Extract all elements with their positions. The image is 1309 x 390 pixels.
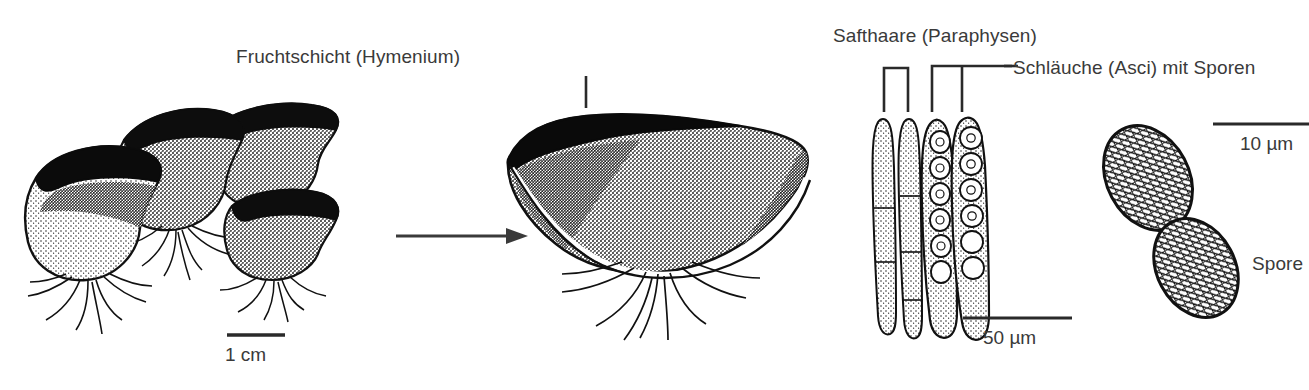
label-asci: Schläuche (Asci) mit Sporen <box>1013 57 1255 79</box>
label-hymenium: Fruchtschicht (Hymenium) <box>236 46 460 68</box>
asci-bracket <box>932 66 1018 112</box>
paraphyses-bracket <box>884 68 908 112</box>
fruiting-body-back-right <box>214 104 338 209</box>
mycelium-threads <box>562 262 760 340</box>
fruiting-body-upper-middle <box>114 109 244 280</box>
scale-bar-1cm-label: 1 cm <box>225 344 266 366</box>
magnify-arrow <box>396 228 528 244</box>
scale-bar-10um-label: 10 µm <box>1240 133 1293 155</box>
ascus-1 <box>922 120 957 338</box>
asci-paraphyses-panel <box>873 66 1018 340</box>
ascus-2 <box>952 118 989 340</box>
ascospores-in-ascus-2 <box>960 127 984 279</box>
label-spore: Spore <box>1252 253 1303 275</box>
single-fruiting-body <box>508 76 810 340</box>
fruiting-body-cluster <box>25 104 338 334</box>
label-paraphysen: Safthaare (Paraphysen) <box>833 25 1037 47</box>
spore-lower <box>1137 204 1255 332</box>
ascospores-in-ascus-1 <box>930 131 951 283</box>
mycelium-threads <box>28 274 152 334</box>
fruiting-body-front-left <box>25 146 161 334</box>
mycelium-threads <box>120 226 236 280</box>
spore-upper <box>1086 110 1210 246</box>
paraphysis-2 <box>899 119 923 338</box>
paraphysis-1 <box>873 119 896 334</box>
mycelium-threads <box>220 277 326 322</box>
spores-panel <box>1086 110 1255 332</box>
mycology-figure: Fruchtschicht (Hymenium) Safthaare (Para… <box>0 0 1309 390</box>
scale-bar-50um-label: 50 µm <box>983 327 1036 349</box>
fruiting-body-right-small <box>220 190 338 322</box>
